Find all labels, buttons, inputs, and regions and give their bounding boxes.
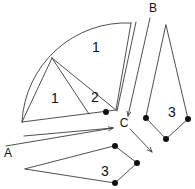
sector-right-edge — [116, 23, 131, 110]
region-label-two: 2 — [91, 89, 99, 105]
vertex-dot-icon — [112, 180, 118, 186]
vertex-dot-icon — [134, 160, 140, 166]
kite-outline — [146, 25, 188, 139]
vertex-dot-icon — [143, 115, 149, 121]
vertex-dot-icon — [103, 109, 109, 115]
geometry-figure: 1 1 2 3 3 — [0, 0, 195, 189]
arrow-a-to-c-upper — [24, 128, 113, 136]
sector-arc-edge — [22, 23, 131, 122]
diagram-canvas: 1 1 2 3 3 — [0, 0, 195, 189]
sector-group: 1 1 2 — [22, 23, 131, 122]
sector-divider-lower — [22, 58, 52, 122]
vertex-dot-icon — [185, 116, 191, 122]
pentagon-outline — [25, 146, 137, 183]
point-label-c: C — [120, 116, 129, 130]
region-label-one-lower: 1 — [51, 90, 59, 106]
arrow-b-to-c-right — [128, 18, 150, 116]
arrows-group — [6, 18, 152, 152]
kite-shape-group: 3 — [146, 25, 188, 139]
arrow-a-to-c-lower — [6, 128, 113, 146]
sector-divider-upper — [52, 58, 116, 110]
arrow-b-to-c-left — [117, 22, 136, 111]
vertex-dot-icon — [163, 136, 169, 142]
arrow-c-outgoing — [130, 129, 152, 152]
vertex-dots-group — [103, 109, 191, 186]
pentagon-shape-group: 3 — [25, 146, 137, 183]
vertex-dot-icon — [112, 143, 118, 149]
region-label-three-right: 3 — [168, 104, 176, 120]
sector-bottom-edge — [22, 110, 116, 122]
region-label-one-upper: 1 — [92, 39, 100, 55]
point-label-b: B — [149, 1, 157, 15]
point-label-a: A — [4, 146, 12, 160]
region-label-three-bottom: 3 — [101, 163, 109, 179]
